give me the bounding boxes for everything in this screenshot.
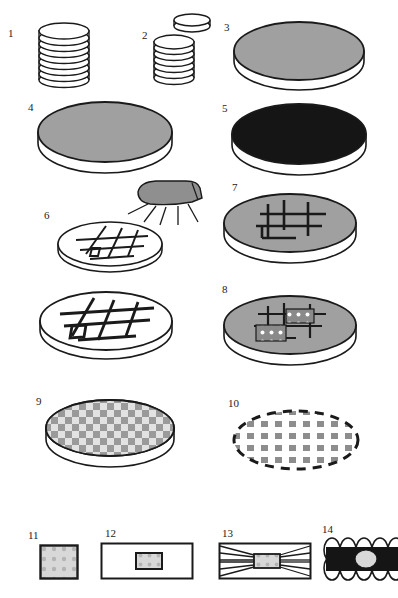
lifted-disc bbox=[174, 14, 210, 32]
figure-disc-stack-1 bbox=[36, 18, 92, 92]
remaining-stack bbox=[154, 35, 194, 85]
step-number-11: 11 bbox=[28, 530, 39, 541]
figure-disc-8-grid-with-patches bbox=[222, 292, 358, 362]
step-number-1: 1 bbox=[8, 28, 14, 39]
figure-disc-stack-2-with-lifted-disc bbox=[150, 12, 212, 92]
figure-13-converging-lines-block bbox=[218, 542, 312, 580]
figure-disc-7-grid-gray bbox=[222, 190, 358, 260]
nozzle-icon bbox=[138, 181, 202, 205]
step-number-13: 13 bbox=[222, 528, 233, 539]
figure-disc-4-gray bbox=[36, 98, 174, 170]
figure-12-speckled-square-in-rect bbox=[100, 542, 194, 580]
step-number-3: 3 bbox=[224, 22, 230, 33]
figure-11-speckled-square bbox=[39, 544, 79, 580]
figure-disc-5-black bbox=[230, 100, 368, 172]
figure-disc-grid-white-enlarged bbox=[38, 288, 174, 358]
step-number-12: 12 bbox=[105, 528, 116, 539]
step-number-9: 9 bbox=[36, 396, 42, 407]
step-number-2: 2 bbox=[142, 30, 148, 41]
step-number-6: 6 bbox=[44, 210, 50, 221]
step-number-14: 14 bbox=[322, 524, 333, 535]
step-number-5: 5 bbox=[222, 103, 228, 114]
figure-disc-3-gray bbox=[232, 18, 366, 86]
center-ellipse bbox=[355, 550, 377, 568]
figure-14-scalloped-black-bar bbox=[326, 536, 398, 582]
figure-disc-6-grid-small bbox=[56, 218, 164, 274]
figure-10-dashed-ellipse-array bbox=[230, 406, 362, 476]
step-number-4: 4 bbox=[28, 102, 34, 113]
figure-disc-9-checkerboard bbox=[44, 396, 178, 466]
